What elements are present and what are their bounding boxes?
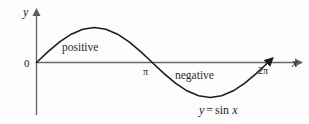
plot-canvas — [0, 0, 309, 124]
origin-label: 0 — [24, 58, 30, 69]
annotation-negative: negative — [175, 70, 214, 82]
equation-function: sin — [215, 103, 229, 117]
curve-equation-label: y=sinx — [199, 104, 237, 116]
sine-function-figure: y x 0 π 2π positive negative y=sinx — [0, 0, 309, 124]
tick-label-pi: π — [143, 67, 148, 77]
x-axis-label: x — [292, 57, 297, 69]
annotation-positive: positive — [62, 42, 98, 54]
equation-operator: = — [204, 103, 215, 117]
y-axis-label: y — [23, 6, 28, 18]
tick-label-two-pi: 2π — [258, 66, 268, 76]
equation-argument: x — [229, 103, 237, 117]
